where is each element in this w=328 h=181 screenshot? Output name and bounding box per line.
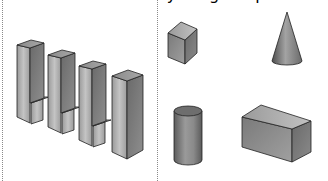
cylinder-shape: cylinder — [158, 0, 222, 165]
right-panel: cube cone cylinder rectangular prism — [158, 0, 328, 181]
rectangular-prism-label: rectangular prism — [158, 0, 300, 4]
tall-bar-4 — [112, 70, 143, 159]
cube-shape: cube — [158, 0, 197, 64]
left-panel: stacked block structure — [2, 0, 158, 181]
solids-figure: cube cone cylinder rectangular prism — [158, 0, 328, 181]
block-structure-figure — [3, 0, 159, 181]
